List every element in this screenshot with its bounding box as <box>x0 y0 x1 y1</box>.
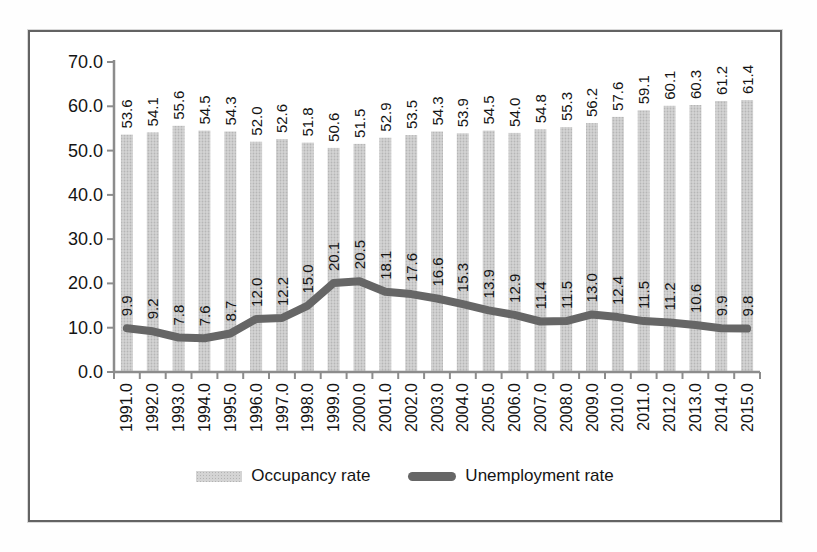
bar-value-label: 59.1 <box>635 75 652 104</box>
occupancy-bar-1991.0 <box>121 135 133 372</box>
y-axis-tick-labels-group: 0.010.020.030.040.050.060.070.0 <box>68 52 103 382</box>
line-value-label: 11.5 <box>558 281 575 309</box>
line-value-label: 11.2 <box>661 282 678 310</box>
y-tick-label: 20.0 <box>68 273 103 293</box>
line-value-label: 9.2 <box>144 298 161 319</box>
occupancy-bar-2009.0 <box>586 123 598 372</box>
x-tick-label: 1991.0 <box>118 383 135 432</box>
occupancy-bar-2010.0 <box>612 117 624 372</box>
x-tick-label: 1994.0 <box>196 383 213 432</box>
x-tick-label: 2013.0 <box>687 383 704 432</box>
x-tick-label: 2007.0 <box>532 383 549 432</box>
unemployment-line-swatch-icon <box>408 472 456 481</box>
x-tick-label: 2006.0 <box>506 383 523 432</box>
line-value-label: 13.9 <box>480 269 497 298</box>
line-value-label: 20.5 <box>351 240 368 269</box>
bar-value-label: 57.6 <box>609 82 626 111</box>
line-value-label: 12.0 <box>248 278 265 307</box>
x-tick-label: 2002.0 <box>403 383 420 432</box>
bar-value-label: 54.0 <box>506 98 523 127</box>
y-tick-label: 70.0 <box>68 52 103 72</box>
occupancy-bar-2005.0 <box>483 131 495 372</box>
x-tick-label: 1992.0 <box>144 383 161 432</box>
x-tick-label: 2008.0 <box>558 383 575 432</box>
bar-value-label: 55.6 <box>170 91 187 120</box>
legend-label-occupancy: Occupancy rate <box>251 466 370 486</box>
occupancy-bar-swatch-icon <box>196 471 242 482</box>
bar-value-label: 52.0 <box>248 106 265 135</box>
x-tick-label: 2005.0 <box>480 383 497 432</box>
x-tick-label: 1993.0 <box>170 383 187 432</box>
occupancy-bar-2011.0 <box>638 110 650 372</box>
occupancy-bar-2003.0 <box>431 132 443 373</box>
x-tick-label: 2015.0 <box>739 383 756 432</box>
bar-value-label: 54.1 <box>144 97 161 126</box>
bar-value-label: 52.6 <box>274 104 291 133</box>
occupancy-bar-2008.0 <box>560 127 572 372</box>
line-value-label: 20.1 <box>325 242 342 271</box>
bar-value-label: 54.5 <box>196 95 213 124</box>
line-value-label: 10.6 <box>687 284 704 313</box>
y-tick-label: 30.0 <box>68 229 103 249</box>
bar-value-label: 60.1 <box>661 71 678 100</box>
occupancy-bar-2012.0 <box>664 106 676 372</box>
scanned-page: 53.654.155.654.554.352.052.651.850.651.5… <box>0 0 817 552</box>
bar-value-label: 53.9 <box>454 98 471 127</box>
x-tick-label: 1996.0 <box>248 383 265 432</box>
line-value-label: 11.5 <box>635 281 652 309</box>
bar-value-labels-group: 53.654.155.654.554.352.052.651.850.651.5… <box>118 65 755 142</box>
x-tick-label: 2009.0 <box>584 383 601 432</box>
line-value-label: 15.0 <box>299 264 316 293</box>
combo-chart: 53.654.155.654.554.352.052.651.850.651.5… <box>30 32 780 520</box>
y-tick-label: 10.0 <box>68 318 103 338</box>
y-tick-label: 0.0 <box>78 362 103 382</box>
occupancy-bar-2007.0 <box>534 129 546 372</box>
line-value-label: 9.8 <box>739 296 756 317</box>
x-tick-label: 2001.0 <box>377 383 394 432</box>
occupancy-bar-1997.0 <box>276 139 288 372</box>
line-value-label: 9.9 <box>118 295 135 316</box>
occupancy-bar-1998.0 <box>302 143 314 372</box>
bar-value-label: 56.2 <box>584 88 601 117</box>
line-value-label: 18.1 <box>377 251 394 280</box>
line-value-label: 12.4 <box>609 276 626 305</box>
line-value-label: 12.9 <box>506 274 523 303</box>
y-tick-label: 60.0 <box>68 96 103 116</box>
occupancy-bars-group <box>121 100 753 372</box>
bar-value-label: 61.2 <box>713 66 730 95</box>
x-tick-label: 2010.0 <box>609 383 626 432</box>
x-tick-label: 1999.0 <box>325 383 342 432</box>
y-tick-label: 50.0 <box>68 141 103 161</box>
legend-item-unemployment: Unemployment rate <box>408 466 613 486</box>
x-tick-label: 2014.0 <box>713 383 730 432</box>
line-value-label: 17.6 <box>403 253 420 282</box>
line-value-label: 7.6 <box>196 305 213 326</box>
occupancy-bar-2013.0 <box>689 105 701 372</box>
bar-value-label: 60.3 <box>687 70 704 99</box>
bar-value-label: 54.5 <box>480 95 497 124</box>
bar-value-label: 61.4 <box>739 65 756 94</box>
bar-value-label: 51.8 <box>299 107 316 136</box>
bar-value-label: 52.9 <box>377 102 394 131</box>
line-value-label: 7.8 <box>170 305 187 326</box>
line-value-label: 12.2 <box>274 277 291 306</box>
line-value-label: 13.0 <box>584 273 601 302</box>
line-value-label: 11.4 <box>532 281 549 309</box>
y-tick-label: 40.0 <box>68 185 103 205</box>
x-tick-label: 1995.0 <box>222 383 239 432</box>
occupancy-bar-2004.0 <box>457 133 469 372</box>
bar-value-label: 54.3 <box>222 96 239 125</box>
x-axis-tick-labels-group: 1991.01992.01993.01994.01995.01996.01997… <box>118 383 755 432</box>
x-tick-label: 1998.0 <box>299 383 316 432</box>
legend-label-unemployment: Unemployment rate <box>465 466 613 486</box>
line-value-label: 8.7 <box>222 301 239 322</box>
line-value-label: 16.6 <box>429 257 446 286</box>
bar-value-label: 55.3 <box>558 92 575 121</box>
legend: Occupancy rate Unemployment rate <box>30 466 780 486</box>
chart-frame: 53.654.155.654.554.352.052.651.850.651.5… <box>28 30 782 522</box>
occupancy-bar-2006.0 <box>509 133 521 372</box>
bar-value-label: 54.3 <box>429 96 446 125</box>
x-tick-label: 2000.0 <box>351 383 368 432</box>
bar-value-label: 53.6 <box>118 99 135 128</box>
x-tick-label: 2003.0 <box>429 383 446 432</box>
